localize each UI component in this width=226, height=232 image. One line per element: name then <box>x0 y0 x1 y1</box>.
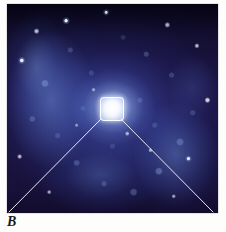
figure-panel: B <box>0 0 226 232</box>
galaxy-photograph <box>7 4 218 213</box>
magnification-box <box>100 97 124 121</box>
panel-label: B <box>7 214 17 230</box>
